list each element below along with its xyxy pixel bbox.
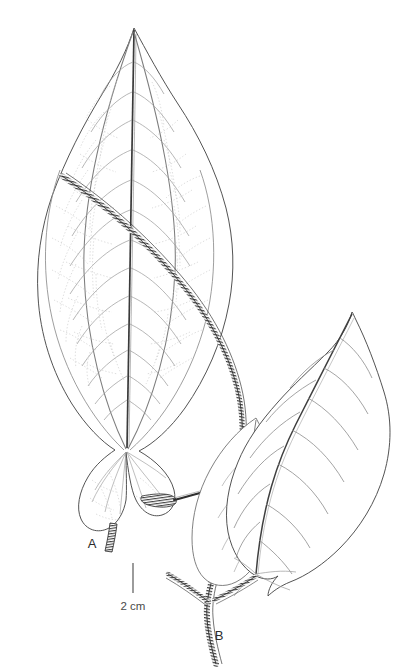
label-b: B	[215, 628, 224, 643]
label-a: A	[88, 536, 97, 551]
botanical-figure: 2 cm A B	[0, 0, 408, 672]
scale-bar-label: 2 cm	[121, 600, 146, 612]
illustration-plate: 2 cm A B	[0, 0, 408, 672]
